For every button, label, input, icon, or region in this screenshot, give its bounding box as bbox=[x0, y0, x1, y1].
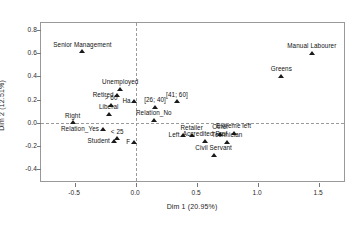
y-axis-tick-label: 0.2 bbox=[28, 95, 37, 102]
data-point-marker[interactable] bbox=[309, 51, 315, 55]
x-axis-tick-label: 0.5 bbox=[191, 189, 200, 196]
data-point-label: Greens bbox=[271, 66, 292, 72]
x-axis-tick-label: 1.5 bbox=[313, 189, 322, 196]
y-axis-tick-label: 0.8 bbox=[28, 25, 37, 32]
data-point-label: [41; 60] bbox=[166, 91, 188, 97]
y-axis-tick-label: 0.4 bbox=[28, 72, 37, 79]
data-point-label: Left bbox=[169, 132, 180, 138]
data-point-label: Relation_Yes bbox=[61, 126, 99, 132]
data-point-label: Civil Servant bbox=[195, 145, 232, 151]
x-axis-tick bbox=[136, 183, 137, 187]
y-axis-tick bbox=[37, 30, 41, 31]
data-point-label: Liberal bbox=[99, 104, 119, 110]
data-point-marker[interactable] bbox=[100, 127, 106, 131]
data-point-marker[interactable] bbox=[202, 139, 208, 143]
y-axis-tick bbox=[37, 53, 41, 54]
y-axis-tick-labels: 0.80.60.40.20.0-0.2-0.4 bbox=[20, 22, 37, 182]
chart-canvas: Dim 2 (12.51%) Dim 1 (20.95%) 0.80.60.40… bbox=[0, 0, 359, 227]
data-point-marker[interactable] bbox=[70, 120, 76, 124]
y-axis-tick-label: 0.6 bbox=[28, 49, 37, 56]
data-point-marker[interactable] bbox=[151, 118, 157, 122]
data-point-label: [26; 40] bbox=[144, 97, 166, 103]
data-point-label: Technician bbox=[212, 132, 243, 138]
y-axis-tick bbox=[37, 146, 41, 147]
data-point-marker[interactable] bbox=[131, 99, 137, 103]
data-point-label: Student bbox=[88, 138, 110, 144]
data-point-label: F bbox=[126, 139, 130, 145]
data-point-marker[interactable] bbox=[211, 153, 217, 157]
x-axis-tick bbox=[258, 183, 259, 187]
data-point-marker[interactable] bbox=[174, 99, 180, 103]
data-point-marker[interactable] bbox=[131, 140, 137, 144]
data-point-label: Senior Management bbox=[53, 42, 111, 48]
x-axis-tick bbox=[197, 183, 198, 187]
data-point-label: < 25 bbox=[111, 128, 124, 134]
data-point-marker[interactable] bbox=[79, 49, 85, 53]
data-point-label: > 60 bbox=[105, 95, 118, 101]
data-point-label: Extreme left bbox=[216, 123, 251, 129]
y-axis-tick bbox=[37, 100, 41, 101]
data-point-marker[interactable] bbox=[278, 74, 284, 78]
y-axis-tick bbox=[37, 169, 41, 170]
data-point-label: Relation_No bbox=[136, 110, 172, 116]
plot-panel: Senior ManagementManual LabourerGreensUn… bbox=[40, 22, 345, 182]
data-point-marker[interactable] bbox=[106, 112, 112, 116]
data-point-marker[interactable] bbox=[111, 139, 117, 143]
y-axis-tick bbox=[37, 123, 41, 124]
x-axis-tick bbox=[75, 183, 76, 187]
y-axis-tick-label: -0.4 bbox=[25, 165, 37, 172]
x-axis-title: Dim 1 (20.95%) bbox=[167, 203, 218, 210]
y-axis-title: Dim 2 (12.51%) bbox=[0, 80, 5, 131]
data-point-label: Right bbox=[65, 112, 80, 118]
y-axis-tick bbox=[37, 76, 41, 77]
data-point-label: Manual Labourer bbox=[287, 43, 336, 49]
y-axis-tick-label: -0.2 bbox=[25, 141, 37, 148]
x-axis-tick-label: 0.0 bbox=[130, 189, 139, 196]
x-axis-tick-label: -0.5 bbox=[68, 189, 80, 196]
data-point-marker[interactable] bbox=[117, 87, 123, 91]
x-axis-tick-label: 1.0 bbox=[252, 189, 261, 196]
data-point-label: Unemployed bbox=[102, 79, 138, 85]
data-point-label: Ha bbox=[122, 98, 130, 104]
y-axis-tick-label: 0.0 bbox=[28, 118, 37, 125]
x-axis-tick bbox=[319, 183, 320, 187]
